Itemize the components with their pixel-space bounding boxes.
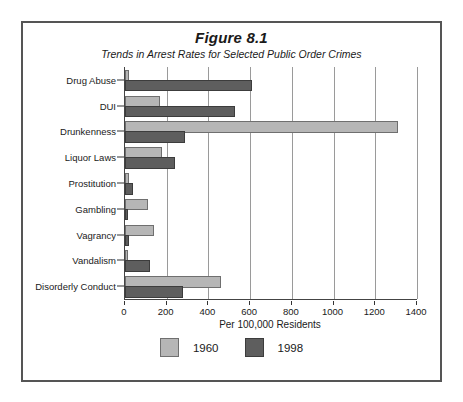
x-axis-tick-label: 0 [121,306,126,317]
legend-label: 1960 [193,342,219,354]
bar-1998-liquor-laws [125,157,175,169]
bar-1998-vandalism [125,260,150,272]
x-axis-tick-label: 1000 [322,306,343,317]
x-axis-tick [166,301,167,305]
legend-item-1960: 1960 [160,338,219,357]
x-axis-tick [124,301,125,305]
bar-1998-prostitution [125,183,133,195]
category-label: DUI [100,100,116,111]
category-tick [117,131,124,132]
gridline [375,67,376,299]
bar-1960-gambling [125,199,148,211]
x-axis-title: Per 100,000 Residents [124,319,416,330]
category-label: Disorderly Conduct [35,281,116,292]
legend-swatch-icon [160,338,179,357]
bar-1998-dui [125,106,235,118]
bar-1998-drug-abuse [125,80,252,92]
category-label: Liquor Laws [65,152,116,163]
gridline [334,67,335,299]
category-tick [117,183,124,184]
category-label: Gambling [75,203,116,214]
gridline [250,67,251,299]
title-block: Figure 8.1 Trends in Arrest Rates for Se… [23,23,440,61]
category-label: Drunkenness [60,126,116,137]
bar-1960-vagrancy [125,225,154,237]
x-axis-tick-label: 600 [241,306,257,317]
category-tick [117,234,124,235]
category-tick [117,105,124,106]
category-label: Vandalism [72,255,116,266]
chart-plot-wrapper: Drug AbuseDUIDrunkennessLiquor LawsProst… [23,67,440,322]
category-tick [117,286,124,287]
legend-swatch-icon [245,338,264,357]
x-axis-tick-label: 400 [199,306,215,317]
legend-label: 1998 [278,342,304,354]
category-label: Prostitution [68,178,116,189]
category-tick [117,157,124,158]
category-label: Vagrancy [77,229,116,240]
gridline [292,67,293,299]
bar-1998-vagrancy [125,235,129,247]
figure-title: Figure 8.1 [23,29,440,46]
x-axis-tick [249,301,250,305]
category-tick [117,208,124,209]
x-axis-tick-label: 200 [158,306,174,317]
chart-legend: 19601998 [23,338,440,357]
chart-plot-area [124,67,417,300]
x-axis-tick-label: 1400 [405,306,426,317]
gridline [167,67,168,299]
x-axis-tick [374,301,375,305]
x-axis-tick-label: 800 [283,306,299,317]
figure-subtitle: Trends in Arrest Rates for Selected Publ… [23,47,440,61]
x-axis-tick [291,301,292,305]
category-tick [117,79,124,80]
bar-1998-drunkenness [125,131,185,143]
figure-frame: Figure 8.1 Trends in Arrest Rates for Se… [21,21,442,382]
category-tick [117,260,124,261]
x-axis-tick [416,301,417,305]
gridline [417,67,418,299]
bar-1998-disorderly-conduct [125,286,183,298]
category-label: Drug Abuse [66,74,116,85]
x-axis-tick [333,301,334,305]
gridline [208,67,209,299]
x-axis-tick-label: 1200 [364,306,385,317]
category-axis-labels: Drug AbuseDUIDrunkennessLiquor LawsProst… [23,67,124,299]
legend-item-1998: 1998 [245,338,304,357]
bar-1998-gambling [125,209,128,221]
x-axis-tick [207,301,208,305]
x-axis-tick-labels: 0200400600800100012001400 [124,301,416,321]
